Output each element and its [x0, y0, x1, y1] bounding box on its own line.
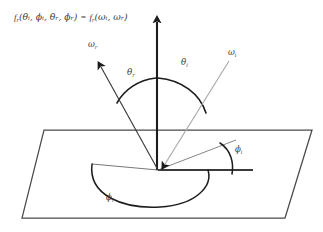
brdf-diagram-svg: fr(θᵢ, ϕᵢ, θᵣ, ϕᵣ)=fr(ωᵢ, ωᵣ) ωr ωi θr θ…	[0, 0, 323, 232]
label-theta-r: θr	[127, 67, 135, 78]
theta-r-arc	[117, 78, 156, 103]
formula-lhs-args: (θᵢ, ϕᵢ, θᵣ, ϕᵣ)	[19, 11, 78, 22]
theta-i-arc	[158, 78, 206, 113]
formula-equals: =	[80, 12, 86, 22]
label-omega-i: ωi	[228, 47, 237, 58]
brdf-formula: fr(θᵢ, ϕᵢ, θᵣ, ϕᵣ)=fr(ωᵢ, ωᵣ)	[14, 11, 128, 23]
label-omega-i-sub: i	[235, 52, 237, 58]
label-theta-i-sub: i	[186, 62, 188, 68]
brdf-diagram-figure: fr(θᵢ, ϕᵢ, θᵣ, ϕᵣ)=fr(ωᵢ, ωᵣ) ωr ωi θr θ…	[0, 0, 323, 232]
label-theta-r-sub: r	[132, 72, 135, 78]
label-omega-r: ωr	[88, 39, 98, 50]
surface-plane	[22, 130, 312, 218]
formula-rhs-args: (ωᵢ, ωᵣ)	[95, 11, 128, 22]
label-omega-r-sub: r	[95, 44, 98, 50]
label-theta-i: θi	[181, 57, 188, 68]
